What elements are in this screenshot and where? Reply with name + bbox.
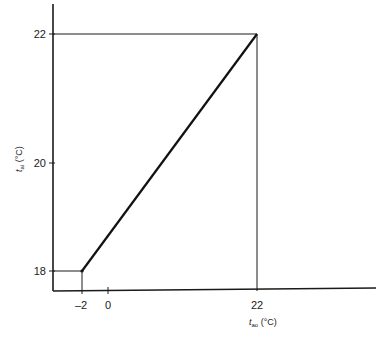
x-tick-label-22: 22: [251, 299, 263, 311]
y-tick-label-20: 20: [34, 157, 46, 169]
data-point-start: [80, 269, 83, 272]
x-tick-label-0: 0: [105, 299, 111, 311]
x-tick-label-m2: –2: [75, 299, 87, 311]
chart: 22 20 18 –2 0 22 tao (°C) tai (°C): [0, 0, 390, 339]
x-axis: [53, 288, 376, 291]
y-tick-label-22: 22: [34, 28, 46, 40]
x-axis-label: tao (°C): [249, 317, 277, 328]
y-axis-label: tai (°C): [14, 146, 25, 172]
data-series-line: [82, 34, 257, 271]
y-tick-label-18: 18: [34, 265, 46, 277]
